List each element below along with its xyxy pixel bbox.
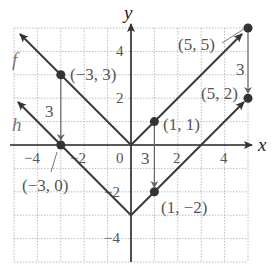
point-5-2 [244,94,253,103]
point-neg3-3 [56,70,65,79]
label-pt-neg3-0: (−3, 0) [22,176,68,195]
label-pt-neg3-3: (−3, 3) [70,65,116,84]
label-pt-5-2: (5, 2) [201,84,238,103]
x-axis-label: x [257,134,267,155]
tick-x--4: −4 [24,150,40,166]
label-pt-5-5: (5, 5) [178,35,215,54]
label-pt-1-neg2: (1, −2) [161,198,207,217]
tick-x-2: 2 [173,150,181,166]
point-neg3-0 [56,141,65,150]
tick-x--2: −2 [70,150,86,166]
point-1-1 [150,117,159,126]
tick-x-4: 4 [220,150,228,166]
y-axis-label: y [122,2,133,23]
tick-origin: 0 [116,150,124,166]
tick-y-2: 2 [116,90,124,106]
tick-y-4: 4 [116,43,124,59]
tick-y--4: −4 [104,230,120,246]
point-1-neg2 [150,187,159,196]
tick-y--2: −2 [104,184,120,200]
label-pt-1-1: (1, 1) [163,115,200,134]
shift-label-left: 3 [45,102,54,121]
chart-plot: x y −4 −2 0 2 4 4 2 −2 −4 f h 3 3 3 [0,0,274,266]
point-5-5 [244,24,253,33]
shift-label-right: 3 [236,60,245,79]
shift-label-mid: 3 [141,149,150,168]
label-f: f [12,49,20,70]
label-h: h [12,114,22,135]
